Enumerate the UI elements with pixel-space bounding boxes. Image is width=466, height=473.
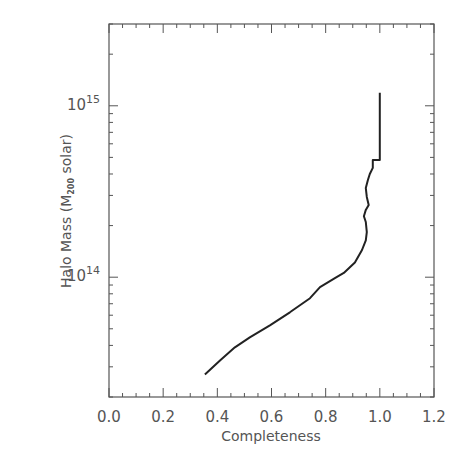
x-tick-label: 0.2 — [151, 408, 175, 426]
y-axis-title-post: solar) — [58, 134, 74, 178]
axis-ticks — [109, 24, 434, 397]
x-tick-label: 0.4 — [205, 408, 229, 426]
x-tick-label: 0.6 — [260, 408, 284, 426]
y-axis-title-subscript: 200 — [67, 178, 76, 195]
x-tick-labels: 0.00.20.40.60.81.01.2 — [97, 408, 446, 426]
x-tick-label: 1.2 — [422, 408, 446, 426]
x-tick-label: 1.0 — [368, 408, 392, 426]
x-tick-label: 0.8 — [314, 408, 338, 426]
x-axis-title: Completeness — [221, 428, 321, 444]
completeness-curve — [205, 93, 380, 375]
y-axis-title: Halo Mass (M200 solar) — [58, 134, 76, 288]
x-tick-label: 0.0 — [97, 408, 121, 426]
y-tick-label: 1015 — [67, 93, 100, 114]
chart: 0.00.20.40.60.81.01.2 10141015 Completen… — [0, 0, 466, 473]
y-axis-title-pre: Halo Mass (M — [58, 195, 74, 288]
plot-frame — [109, 24, 434, 397]
